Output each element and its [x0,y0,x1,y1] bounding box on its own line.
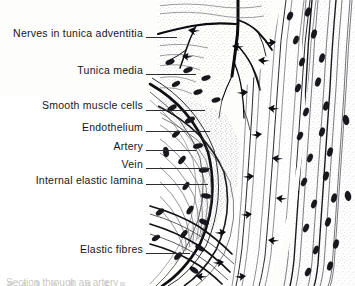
label-elastic-fibres: Elastic fibres [80,244,143,255]
figure-caption: Section through an artery [6,277,118,286]
label-tunica-media: Tunica media [77,65,143,76]
label-endothelium: Endothelium [82,122,143,133]
leader-line-smooth-muscle-cells [146,110,205,111]
label-artery: Artery [113,141,143,152]
histology-figure: Nerves in tunica adventitia Tunica media… [0,0,355,286]
leader-line-artery [146,150,196,151]
leader-line-elastic-fibres [146,253,190,254]
leader-line-vein [146,168,212,169]
label-nerves-in-tunica-adventitia: Nerves in tunica adventitia [13,28,143,39]
label-smooth-muscle-cells: Smooth muscle cells [42,100,143,111]
leader-line-nerves-in-tunica-adventitia [146,37,177,38]
leader-line-tunica-media [146,74,196,75]
leader-line-internal-elastic-lamina [146,184,208,185]
label-vein: Vein [122,159,143,170]
leader-line-endothelium [146,131,210,132]
vessel-histology-illustration [0,0,355,286]
label-internal-elastic-lamina: Internal elastic lamina [36,175,143,186]
